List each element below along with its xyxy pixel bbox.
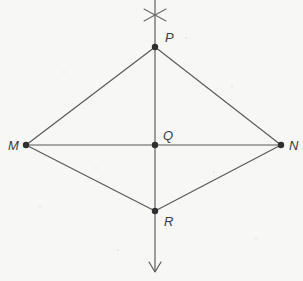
vertex-dot-m — [23, 142, 29, 148]
figure-background — [0, 0, 303, 281]
vertex-label-p: P — [165, 30, 174, 45]
vertex-dot-q — [152, 142, 158, 148]
geometry-canvas: P M Q N R — [0, 0, 303, 281]
vertex-label-r: R — [164, 214, 174, 229]
vertex-dot-n — [278, 142, 284, 148]
vertex-label-n: N — [289, 138, 299, 153]
geometry-figure: P M Q N R — [0, 0, 303, 281]
vertex-label-q: Q — [163, 128, 173, 143]
vertex-label-m: M — [8, 138, 19, 153]
vertex-dot-p — [152, 44, 158, 50]
vertex-dot-r — [152, 208, 158, 214]
